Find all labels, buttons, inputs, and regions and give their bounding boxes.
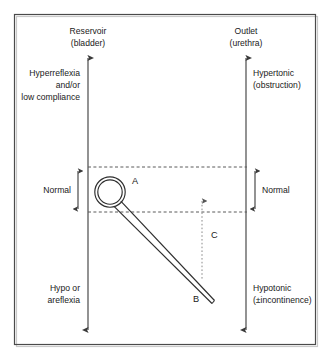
marker-b-label: B <box>193 294 199 304</box>
right-normal-label: Normal <box>262 185 290 195</box>
shape-stem-lower-stroke <box>114 207 212 304</box>
diagram-svg: Reservoir (bladder) Hyperreflexia and/or… <box>0 0 330 360</box>
bladder-outlet-shape <box>95 177 215 304</box>
reservoir-upper-label-line1: Hyperreflexia <box>29 68 80 78</box>
reservoir-upper-label-line3: low compliance <box>21 92 80 102</box>
reservoir-upper-label-line2: and/or <box>56 80 81 90</box>
shape-inner-ring <box>98 180 122 204</box>
outlet-lower-label-line1: Hypotonic <box>253 283 292 293</box>
reservoir-lower-label-line1: Hypo or <box>50 283 80 293</box>
outlet-lower-label-line2: (±incontinence) <box>253 295 312 305</box>
marker-c-label: C <box>211 230 218 240</box>
left-normal-label: Normal <box>43 185 71 195</box>
outlet-upper-label-line1: Hypertonic <box>253 68 295 78</box>
outlet-upper-label-line2: (obstruction) <box>253 80 301 90</box>
outlet-title-line1: Outlet <box>235 26 259 36</box>
outlet-title-line2: (urethra) <box>230 38 263 48</box>
reservoir-title-line1: Reservoir <box>70 26 107 36</box>
shape-stem-tip <box>212 301 215 304</box>
diagram-canvas: Reservoir (bladder) Hyperreflexia and/or… <box>0 0 330 360</box>
reservoir-title-line2: (bladder) <box>71 38 106 48</box>
marker-a-label: A <box>132 176 139 186</box>
shape-stem-upper-stroke <box>121 201 215 300</box>
reservoir-lower-label-line2: areflexia <box>48 295 81 305</box>
shape-outer-ring <box>95 177 125 207</box>
